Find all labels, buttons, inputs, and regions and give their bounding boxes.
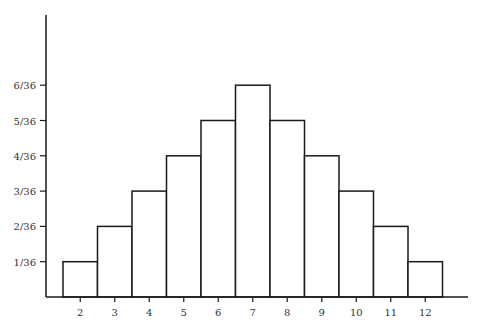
y-tick-label: 4/36 <box>14 151 36 162</box>
x-tick-label: 5 <box>181 307 187 318</box>
probability-histogram: 1/362/363/364/365/366/36 23456789101112 <box>0 0 480 327</box>
bar-9 <box>305 156 340 297</box>
y-tick-label: 1/36 <box>14 257 36 268</box>
histogram-bars <box>63 85 443 297</box>
x-tick-label: 2 <box>77 307 83 318</box>
x-tick-label: 6 <box>215 307 221 318</box>
y-tick-label: 3/36 <box>14 186 36 197</box>
bar-12 <box>408 262 443 297</box>
y-tick-label: 5/36 <box>14 116 36 127</box>
y-tick-label: 6/36 <box>14 80 36 91</box>
bar-10 <box>339 191 374 297</box>
bar-11 <box>374 226 409 297</box>
bar-7 <box>236 85 271 297</box>
bar-6 <box>201 121 236 298</box>
y-axis-ticks: 1/362/363/364/365/366/36 <box>14 80 46 268</box>
x-tick-label: 7 <box>250 307 256 318</box>
x-tick-label: 9 <box>319 307 325 318</box>
x-axis-ticks: 23456789101112 <box>77 297 432 318</box>
x-tick-label: 10 <box>350 307 363 318</box>
x-tick-label: 12 <box>419 307 432 318</box>
bar-3 <box>98 226 133 297</box>
bar-2 <box>63 262 98 297</box>
x-tick-label: 4 <box>146 307 152 318</box>
bar-4 <box>132 191 167 297</box>
x-tick-label: 8 <box>284 307 290 318</box>
bar-8 <box>270 121 305 298</box>
x-tick-label: 11 <box>384 307 397 318</box>
bar-5 <box>167 156 202 297</box>
x-tick-label: 3 <box>112 307 118 318</box>
y-tick-label: 2/36 <box>14 221 36 232</box>
